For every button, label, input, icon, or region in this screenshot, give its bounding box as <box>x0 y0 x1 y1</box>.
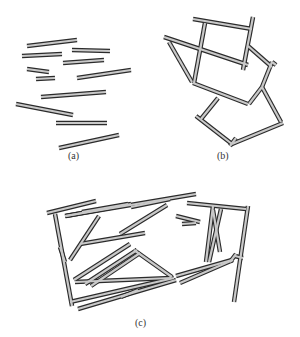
bar-segment-fill <box>262 62 272 87</box>
panel-b <box>164 17 283 146</box>
bar-segment-fill <box>16 104 73 115</box>
panel-c <box>47 194 248 309</box>
bar-segment-fill <box>59 135 119 148</box>
bar-segment-fill <box>249 87 262 104</box>
bar-segment-fill <box>80 233 145 244</box>
bar-segment-fill <box>182 223 196 224</box>
bar-segment-fill <box>248 46 272 67</box>
bar-segment-fill <box>77 70 131 78</box>
bar-segment-fill <box>193 83 248 104</box>
bar-segment-fill <box>120 205 167 234</box>
bar-segment-fill <box>193 19 252 29</box>
bar-segment-fill <box>134 250 172 277</box>
caption-c: (c) <box>135 317 146 328</box>
bar-segment-fill <box>201 98 218 119</box>
bar-segment-fill <box>194 23 205 83</box>
bar-segment-fill <box>36 78 55 79</box>
bar-segment-fill <box>72 50 110 51</box>
bar-segment-fill <box>232 123 283 144</box>
panel-a <box>16 40 131 148</box>
bar-segment-fill <box>70 216 99 260</box>
figure-canvas <box>0 0 300 337</box>
caption-a: (a) <box>68 150 79 161</box>
bar-segment-fill <box>262 87 281 122</box>
bar-segment-fill <box>196 116 232 144</box>
bar-segment-fill <box>169 42 192 82</box>
bar-segment-fill <box>243 17 253 70</box>
caption-b: (b) <box>217 150 229 161</box>
